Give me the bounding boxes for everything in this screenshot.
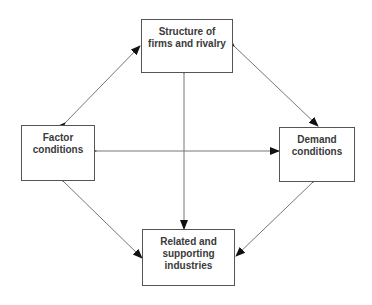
arrow-factor-structure [65, 46, 140, 123]
node-demand-conditions: Demand conditions [279, 127, 355, 182]
arrow-factor-related [63, 181, 142, 258]
node-factor-conditions: Factor conditions [21, 125, 95, 181]
arrow-demand-related [236, 182, 313, 256]
node-label-line: conditions [280, 146, 354, 158]
node-label-line: Structure of [142, 26, 232, 38]
node-label-line: Demand [280, 134, 354, 146]
node-label-line: supporting [143, 248, 234, 260]
node-label-line: conditions [22, 144, 94, 156]
diamond-diagram: Structure of firms and rivalry Factor co… [0, 0, 372, 305]
node-label-line: Related and [143, 236, 234, 248]
node-label-line: firms and rivalry [142, 38, 232, 50]
node-label-line: industries [143, 260, 234, 272]
node-label-line: Factor [22, 132, 94, 144]
arrow-structure-demand [234, 46, 318, 126]
node-structure-of-firms: Structure of firms and rivalry [141, 19, 233, 73]
node-related-supporting-industries: Related and supporting industries [142, 229, 235, 286]
